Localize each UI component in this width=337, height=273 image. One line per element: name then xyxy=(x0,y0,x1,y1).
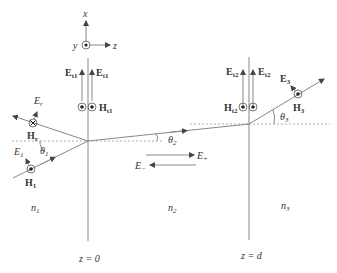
reflected-E-label: Er xyxy=(33,95,43,108)
y-axis-label: y xyxy=(72,40,78,51)
theta2-arc xyxy=(155,134,158,141)
Et1-left-label: Et1 xyxy=(65,67,78,80)
reflected-ray xyxy=(13,116,88,141)
theta3-label: θ3 xyxy=(280,111,289,124)
Et2-right-label: Et2 xyxy=(258,66,271,79)
z-axis-label: z xyxy=(112,40,117,51)
interface-z0-label: z = 0 xyxy=(78,253,100,264)
Ht1-left-icon xyxy=(78,103,86,111)
interface-zd-label: z = d xyxy=(240,250,263,261)
multilayer-diagram: x y z E1 H1 θ1 Er Hr Et1 Et1 Ht1 θ2 xyxy=(0,0,337,273)
theta3-arc xyxy=(273,110,275,124)
reflected-E-arrow xyxy=(34,112,37,119)
Ht1-right-icon xyxy=(88,103,96,111)
E-plus-label: E+ xyxy=(196,150,208,163)
medium-n2-label: n2 xyxy=(168,202,177,215)
reflected-H-field-icon xyxy=(29,119,37,127)
E-minus-label: E− xyxy=(134,160,146,173)
incident-E-arrow xyxy=(26,159,29,165)
theta2-label: θ2 xyxy=(168,134,177,147)
medium-n3-label: n3 xyxy=(281,200,290,213)
medium-n1-label: n1 xyxy=(31,202,40,215)
incident-H-label: H1 xyxy=(25,177,37,190)
transmitted-E-label: E3 xyxy=(280,73,291,86)
coordinate-axes: x y z xyxy=(72,8,117,51)
Et2-left-label: Et2 xyxy=(226,66,239,79)
x-axis-label: x xyxy=(82,8,88,19)
transmitted-E-arrow xyxy=(291,86,295,91)
transmitted-H-field-icon xyxy=(294,90,302,98)
transmitted-H-label: H3 xyxy=(293,102,305,115)
Ht1-label: Ht1 xyxy=(99,102,113,115)
theta1-label: θ1 xyxy=(40,145,48,158)
Ht2-label: Ht2 xyxy=(224,102,238,115)
incident-H-field-icon xyxy=(27,165,35,173)
Et1-right-label: Et1 xyxy=(96,67,109,80)
incident-E-label: E1 xyxy=(13,146,24,159)
